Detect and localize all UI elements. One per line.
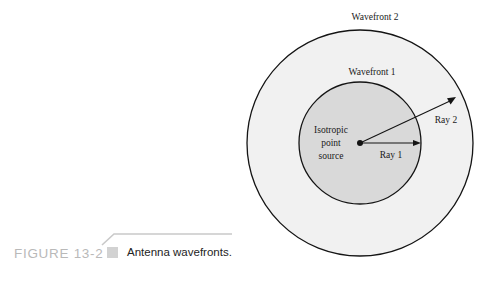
isotropic-source-label-line2: point (321, 138, 341, 148)
figure-page: Wavefront 2 Wavefront 1 Isotropic point … (0, 0, 493, 284)
isotropic-source-label-line3: source (319, 151, 344, 161)
square-marker-icon (107, 247, 118, 258)
wavefront-2-label: Wavefront 2 (352, 12, 399, 22)
wavefront-diagram: Wavefront 2 Wavefront 1 Isotropic point … (0, 0, 493, 284)
ray-2-label: Ray 2 (435, 115, 458, 125)
wavefront-1-label: Wavefront 1 (349, 67, 396, 77)
isotropic-source-label-line1: Isotropic (314, 125, 348, 135)
figure-number: FIGURE 13-2 (14, 246, 103, 261)
isotropic-source-dot (357, 140, 363, 146)
figure-caption: Antenna wavefronts. (127, 246, 232, 258)
ray-1-label: Ray 1 (380, 150, 403, 160)
